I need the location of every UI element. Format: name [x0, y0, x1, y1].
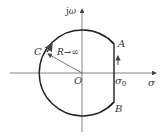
imag-axis-label: jω [65, 6, 77, 16]
origin-label: O [74, 75, 82, 86]
corner-a [108, 38, 114, 44]
point-c-label: C [34, 46, 42, 57]
s-plane-diagram: jω σ O A B C R→∞ σ0 [0, 0, 168, 138]
real-axis-label: σ [148, 77, 156, 88]
sigma0-label: σ0 [115, 75, 126, 88]
corner-b [108, 102, 114, 108]
point-b-label: B [114, 103, 122, 114]
point-a-label: A [117, 38, 125, 49]
radius-label: R→∞ [56, 47, 79, 57]
